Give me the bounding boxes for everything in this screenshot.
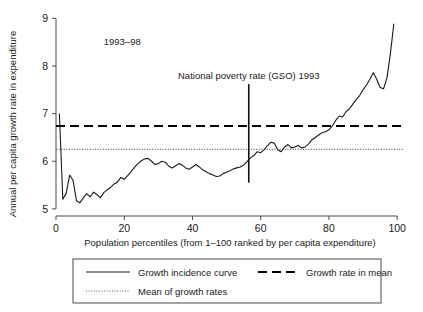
y-axis-ticks: 56789	[42, 12, 56, 214]
x-tick-label: 60	[255, 222, 267, 234]
legend-item-growth-incidence-curve[interactable]: Growth incidence curve	[86, 267, 237, 278]
legend-label-growth-incidence-curve: Growth incidence curve	[138, 267, 237, 278]
y-tick-label: 8	[42, 60, 48, 72]
x-tick-label: 20	[118, 222, 130, 234]
y-tick-label: 7	[42, 107, 48, 119]
y-tick-label: 9	[42, 12, 48, 24]
legend: Growth incidence curve Growth rate in me…	[73, 259, 392, 303]
y-axis-title: Annual per capita growth rate in expendi…	[7, 31, 18, 217]
x-tick-label: 100	[388, 222, 406, 234]
y-tick-label: 6	[42, 155, 48, 167]
chart-canvas: 56789 020406080100 1993–98 National pove…	[0, 0, 423, 312]
legend-label-growth-rate-in-mean: Growth rate in mean	[306, 267, 392, 278]
x-axis-title: Population percentiles (from 1–100 ranke…	[84, 237, 376, 248]
legend-item-growth-rate-in-mean[interactable]: Growth rate in mean	[258, 267, 392, 278]
plot-area: 56789 020406080100	[42, 12, 406, 234]
legend-label-mean-of-growth-rates: Mean of growth rates	[138, 286, 227, 297]
growth-incidence-curve-path	[59, 24, 393, 203]
period-annotation: 1993–98	[104, 36, 141, 47]
x-tick-label: 80	[323, 222, 335, 234]
x-tick-label: 0	[53, 222, 59, 234]
legend-item-mean-of-growth-rates[interactable]: Mean of growth rates	[86, 286, 227, 297]
y-tick-label: 5	[42, 203, 48, 215]
x-axis-ticks: 020406080100	[53, 216, 406, 234]
x-tick-label: 40	[187, 222, 199, 234]
growth-incidence-curve-figure: 56789 020406080100 1993–98 National pove…	[0, 0, 423, 312]
reference-lines	[56, 84, 404, 183]
poverty-rate-annotation: National poverty rate (GSO) 1993	[178, 70, 320, 81]
